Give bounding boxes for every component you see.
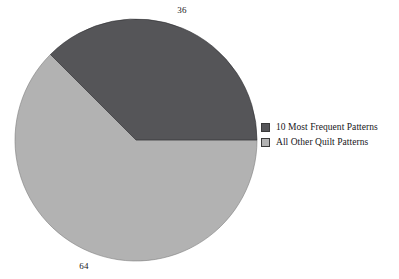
pie-plot-area: 36 64 [0,0,270,279]
legend-item-all-other-quilt-patterns[interactable]: All Other Quilt Patterns [261,135,399,149]
legend: 10 Most Frequent Patterns All Other Quil… [261,120,399,150]
slice-value-label-10-most-frequent-patterns: 36 [170,5,194,15]
pie-chart: 36 64 10 Most Frequent Patterns All Othe… [0,0,399,279]
legend-item-10-most-frequent-patterns[interactable]: 10 Most Frequent Patterns [261,120,399,134]
legend-label-all-other-quilt-patterns: All Other Quilt Patterns [276,137,368,148]
legend-label-10-most-frequent-patterns: 10 Most Frequent Patterns [276,122,378,133]
legend-swatch-icon-dark [261,123,270,132]
pie-svg [0,0,270,279]
legend-swatch-icon-light [261,138,270,147]
slice-value-label-all-other-quilt-patterns: 64 [72,261,96,271]
